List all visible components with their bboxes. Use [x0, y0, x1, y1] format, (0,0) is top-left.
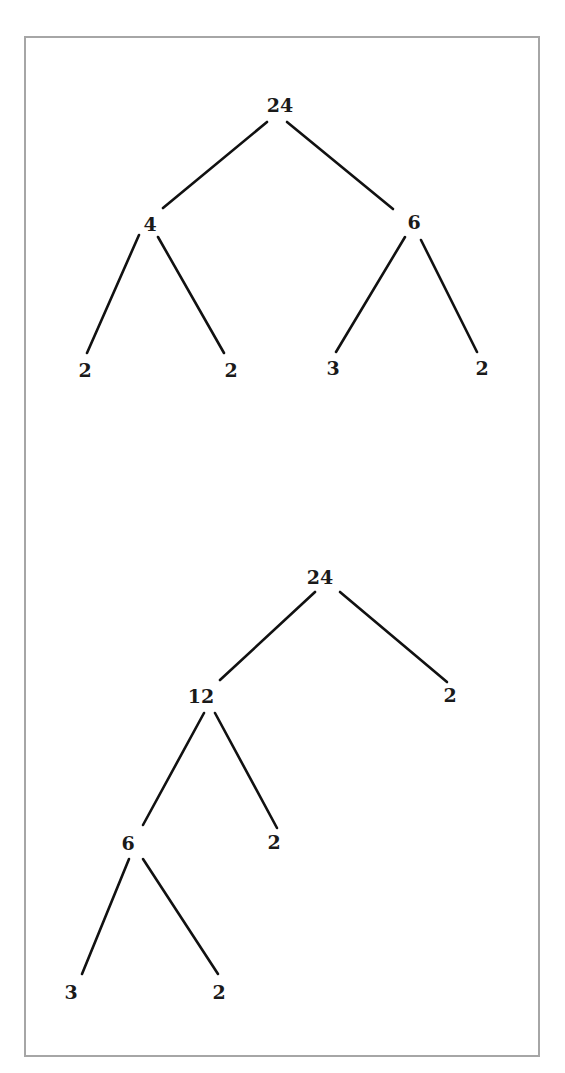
tree-edges [0, 0, 565, 1073]
tree-edge [287, 122, 393, 209]
node: 4 [143, 215, 156, 234]
tree-edge [82, 859, 129, 974]
factor-tree-1-edges [87, 122, 477, 353]
tree-edge [87, 235, 139, 353]
node-leaf: 2 [443, 686, 456, 705]
tree-edge [163, 122, 267, 208]
node-leaf: 2 [78, 361, 91, 380]
node-root: 24 [307, 568, 333, 587]
node-leaf: 3 [64, 983, 77, 1002]
node-leaf: 2 [267, 833, 280, 852]
node-leaf: 3 [326, 359, 339, 378]
tree-edge [220, 592, 315, 680]
node-leaf: 2 [224, 361, 237, 380]
node-root: 24 [267, 96, 293, 115]
tree-edge [158, 237, 224, 353]
node: 6 [407, 213, 420, 232]
node-leaf: 2 [212, 983, 225, 1002]
node: 12 [188, 687, 214, 706]
tree-edge [421, 240, 477, 352]
node: 6 [121, 834, 134, 853]
node-leaf: 2 [475, 359, 488, 378]
tree-edge [143, 713, 204, 825]
tree-edge [143, 859, 218, 974]
tree-edge [340, 592, 447, 682]
tree-edge [215, 713, 277, 828]
tree-edge [336, 237, 405, 352]
factor-tree-2-edges [82, 592, 447, 974]
